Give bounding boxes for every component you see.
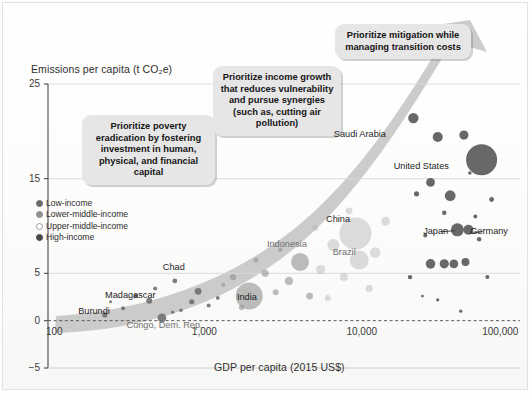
x-tick-label: 100: [46, 326, 63, 337]
legend-swatch-icon: [36, 200, 43, 207]
data-point: [221, 283, 225, 287]
data-point: [408, 275, 412, 279]
data-point: [312, 225, 318, 231]
x-axis-title: GDP per capita (2015 US$): [214, 361, 345, 373]
data-point: [445, 190, 456, 201]
data-point: [171, 311, 174, 314]
data-point: [189, 299, 194, 304]
data-point: [466, 144, 497, 175]
scatter-plot: [0, 0, 532, 394]
data-point: [285, 277, 293, 285]
data-point: [477, 237, 481, 241]
data-point: [366, 285, 373, 292]
data-point: [325, 295, 331, 301]
country-label: Madagascar: [105, 290, 156, 300]
y-tick-label: 25: [18, 78, 40, 89]
data-point: [291, 253, 309, 271]
country-label: United States: [394, 161, 449, 171]
callout-poverty-eradication: Prioritize poverty eradication by foster…: [82, 115, 215, 185]
legend-item-label: High-income: [46, 232, 94, 243]
country-label: India: [237, 292, 257, 302]
y-tick-label: 15: [18, 173, 40, 184]
data-point: [414, 191, 419, 196]
country-label: Congo, Dem. Rep.: [127, 320, 203, 330]
y-axis-title: Emissions per capita (t CO₂e): [31, 63, 172, 75]
y-tick-label: 0: [18, 315, 40, 326]
country-label: Saudi Arabia: [334, 129, 386, 139]
data-point: [485, 275, 489, 279]
legend-item-label: Upper-middle-income: [46, 221, 128, 232]
data-point: [239, 305, 244, 310]
legend: Low-incomeLower-middle-incomeUpper-middl…: [36, 198, 128, 243]
data-point: [273, 289, 279, 295]
x-tick-label: 10,000: [346, 326, 377, 337]
data-point: [426, 178, 435, 187]
data-point: [451, 223, 464, 236]
data-point: [230, 274, 236, 280]
legend-item: Low-income: [36, 198, 128, 209]
data-point: [489, 197, 494, 202]
legend-swatch-icon: [36, 234, 43, 241]
legend-item-label: Low-income: [46, 198, 92, 209]
country-label: China: [326, 214, 350, 224]
country-label: Burundi: [78, 306, 110, 316]
legend-item: Upper-middle-income: [36, 221, 128, 232]
data-point: [121, 306, 125, 310]
country-label: Japan: [423, 226, 448, 236]
data-point: [316, 265, 325, 274]
data-point: [468, 171, 472, 175]
callout-income-growth: Prioritize income growth that reduces vu…: [213, 66, 341, 136]
data-point: [207, 304, 211, 308]
data-point: [179, 308, 183, 312]
y-tick-label: −5: [18, 362, 40, 373]
data-point: [440, 259, 449, 268]
x-tick-label: 100,000: [482, 326, 518, 337]
data-point: [109, 300, 112, 303]
country-label: Indonesia: [267, 239, 307, 249]
data-point: [370, 247, 380, 257]
callout-mitigation: Prioritize mitigation while managing tra…: [335, 24, 471, 59]
data-point: [473, 215, 477, 219]
data-point: [459, 310, 462, 313]
data-point: [461, 258, 469, 266]
figure-root: Emissions per capita (t CO₂e) GDP per ca…: [0, 0, 532, 394]
country-label: Chad: [163, 262, 185, 272]
data-point: [262, 270, 269, 277]
data-point: [408, 113, 418, 123]
legend-swatch-icon: [36, 211, 43, 218]
data-point: [172, 279, 177, 284]
data-point: [459, 131, 468, 140]
legend-item: Lower-middle-income: [36, 209, 128, 220]
legend-swatch-icon: [36, 223, 43, 230]
data-point: [436, 298, 439, 301]
data-point: [306, 293, 313, 300]
legend-item-label: Lower-middle-income: [46, 209, 128, 220]
country-label: Germany: [470, 226, 508, 236]
data-point: [216, 296, 220, 300]
data-point: [433, 132, 443, 142]
data-point: [442, 211, 446, 215]
data-point: [195, 288, 202, 295]
y-tick-label: 5: [18, 267, 40, 278]
data-point: [449, 259, 458, 268]
country-label: Brazil: [333, 247, 356, 257]
data-point: [346, 207, 353, 214]
data-point: [381, 217, 390, 226]
data-point: [426, 259, 436, 269]
legend-item: High-income: [36, 232, 128, 243]
data-point: [254, 258, 259, 263]
data-point: [340, 273, 348, 281]
data-point: [421, 295, 424, 298]
